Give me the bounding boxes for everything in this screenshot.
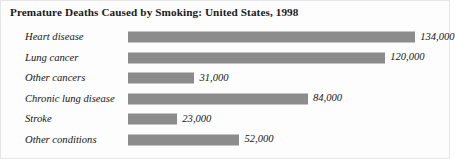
bar-category-label: Heart disease [25,32,84,43]
bar-fill [128,114,177,125]
bar-track: 31,000 [128,73,428,84]
bar-track: 84,000 [128,93,428,104]
bar-row: Other conditions52,000 [1,130,451,151]
bar-track: 120,000 [128,52,428,63]
bar-value-label: 31,000 [194,73,228,84]
bar-category-label: Chronic lung disease [25,93,115,104]
bar-value-label: 52,000 [239,134,273,145]
bar-category-label: Other cancers [25,73,85,84]
chart-plot-area: Heart disease134,000Lung cancer120,000Ot… [1,27,451,151]
bar-row: Lung cancer120,000 [1,48,451,69]
bar-track: 23,000 [128,114,428,125]
bar-category-label: Other conditions [25,134,97,145]
chart-title: Premature Deaths Caused by Smoking: Unit… [10,6,299,18]
bar-fill [128,32,415,43]
bar-track: 134,000 [128,32,428,43]
bar-category-label: Stroke [25,114,52,125]
bar-value-label: 84,000 [308,93,342,104]
bar-track: 52,000 [128,134,428,145]
bar-row: Other cancers31,000 [1,68,451,89]
bar-row: Stroke23,000 [1,109,451,130]
bar-fill [128,73,194,84]
bar-fill [128,134,239,145]
bar-fill [128,52,385,63]
bar-value-label: 134,000 [415,32,454,43]
bar-row: Chronic lung disease84,000 [1,89,451,110]
bar-value-label: 23,000 [177,114,211,125]
bar-row: Heart disease134,000 [1,27,451,48]
bar-category-label: Lung cancer [25,52,78,63]
bar-fill [128,93,308,104]
bar-value-label: 120,000 [385,52,424,63]
